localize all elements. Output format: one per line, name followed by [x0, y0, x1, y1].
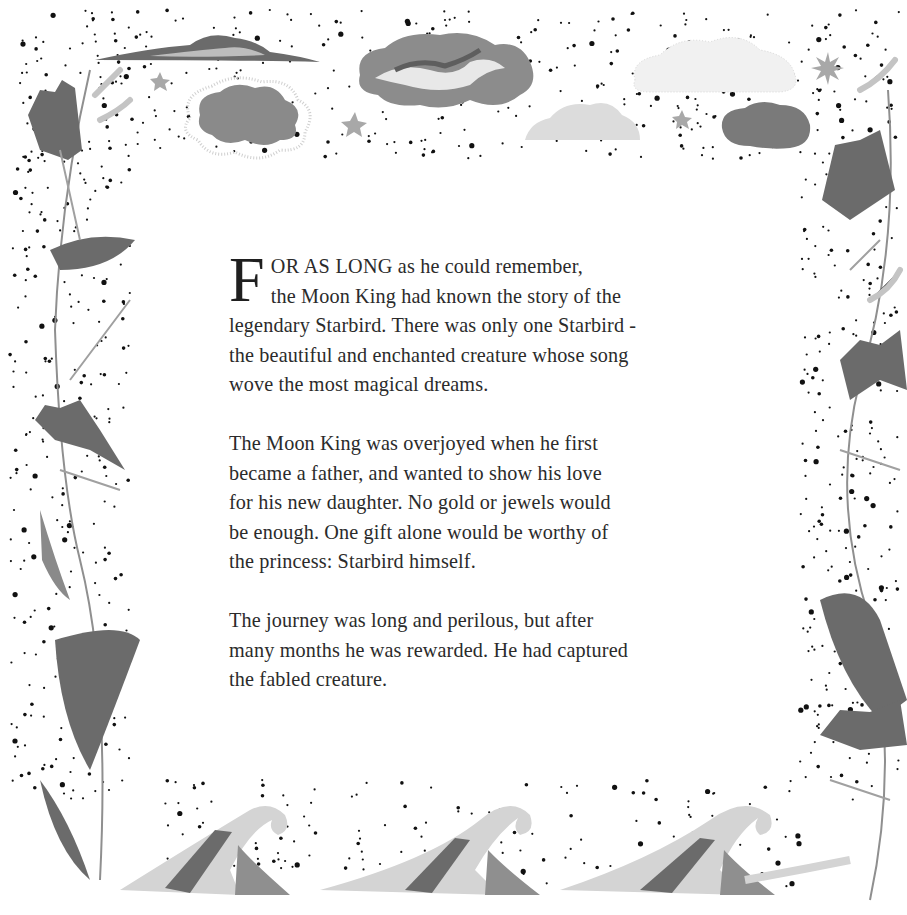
star-dot [43, 687, 45, 689]
star-dot [884, 322, 886, 324]
star-dot [423, 148, 425, 150]
star-dot [49, 625, 54, 630]
star-dot [88, 772, 92, 776]
star-dot [610, 51, 612, 53]
star-dot [767, 14, 769, 16]
star-dot [697, 122, 699, 124]
star-dot [894, 136, 898, 140]
star-dot [818, 704, 822, 708]
star-dot [580, 839, 582, 841]
star-dot [808, 49, 810, 51]
star-dot [23, 621, 27, 625]
star-dot [868, 753, 870, 755]
star-dot [538, 61, 540, 63]
star-dot [33, 786, 37, 790]
star-dot [322, 43, 326, 47]
star-dot [841, 474, 843, 476]
star-dot [822, 419, 824, 421]
star-dot [839, 109, 841, 111]
star-dot [441, 116, 445, 120]
star-dot [802, 627, 804, 629]
star-dot [125, 144, 127, 146]
star-dot [74, 369, 76, 371]
star-dot [825, 550, 827, 552]
star-dot [723, 29, 725, 31]
star-dot [705, 18, 707, 20]
star-dot [145, 45, 147, 47]
star-dot [183, 137, 185, 139]
star-dot [35, 36, 37, 38]
star-dot [193, 784, 195, 786]
star-dot [636, 93, 638, 95]
star-dot [739, 156, 743, 160]
star-dot [63, 400, 65, 402]
star-dot [111, 11, 113, 13]
story-text: F OR AS LONG as he could remember, the M… [229, 252, 749, 724]
star-dot [829, 530, 831, 532]
star-dot [764, 785, 768, 789]
star-dot [400, 781, 404, 785]
star-dot [593, 29, 595, 31]
star-dot [803, 230, 805, 232]
star-dot [896, 390, 898, 392]
star-dot [444, 19, 446, 21]
star-dot [368, 135, 370, 137]
star-dot [123, 303, 125, 305]
star-dot [844, 575, 849, 580]
star-dot [150, 36, 152, 38]
star-dot [81, 470, 83, 472]
star-dot [361, 37, 363, 39]
star-dot [27, 772, 31, 776]
star-dot [851, 129, 853, 131]
star-dot [10, 560, 12, 562]
star-dot [185, 72, 187, 74]
star-dot [59, 738, 63, 742]
star-dot [409, 141, 413, 145]
star-dot [682, 148, 684, 150]
star-dot [673, 836, 675, 838]
star-dot [400, 851, 402, 853]
star-dot [240, 69, 242, 71]
star-dot [23, 713, 27, 717]
star-dot [817, 714, 819, 716]
star-dot [887, 79, 892, 84]
star-dot [56, 519, 58, 521]
star-dot [816, 37, 821, 42]
star-dot [834, 650, 836, 652]
star-dot [150, 63, 152, 65]
star-dot [215, 146, 217, 148]
star-dot [333, 70, 335, 72]
cloud-stippled-right [634, 38, 796, 93]
star-dot [583, 862, 585, 864]
star-dot [326, 140, 330, 144]
star-dot [876, 277, 878, 279]
star-dot [829, 483, 831, 485]
star-dot [739, 844, 741, 846]
star-dot [148, 96, 150, 98]
star-dot [308, 824, 310, 826]
star-dot [142, 122, 144, 124]
star-dot [303, 815, 305, 817]
star-dot [24, 295, 26, 297]
star-dot [880, 589, 884, 593]
star-dot [59, 229, 61, 231]
star-dot [878, 219, 882, 223]
star-dot [159, 147, 161, 149]
star-dot [182, 833, 184, 835]
star-dot [30, 715, 32, 717]
star-dot [877, 36, 879, 38]
star-dot [340, 22, 342, 24]
star-dot [852, 798, 854, 800]
star-dot [860, 58, 862, 60]
star-dot [22, 102, 24, 104]
star-dot [414, 826, 418, 830]
star-dot [86, 219, 88, 221]
star-dot [677, 105, 679, 107]
star-dot [53, 625, 55, 627]
star-dot [167, 824, 169, 826]
star-dot [813, 273, 815, 275]
star-dot [108, 146, 112, 150]
star-dot [439, 132, 441, 134]
star-dot [36, 229, 40, 233]
star-dot [886, 76, 888, 78]
